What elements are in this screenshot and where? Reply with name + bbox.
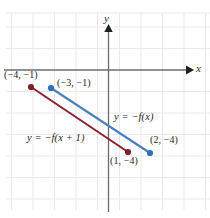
point-label-neg3-neg1: (−3, −1): [57, 78, 91, 88]
x-axis-label: x: [196, 63, 201, 74]
function-label-neg-f-of-x: y = −f(x): [114, 112, 154, 123]
point-label-neg4-neg1: (−4, −1): [4, 70, 38, 80]
endpoint-dot: [28, 84, 34, 90]
y-axis-label: y: [104, 13, 109, 24]
y-axis: [104, 24, 112, 212]
point-label-2-neg4: (2, −4): [150, 135, 178, 145]
endpoint-dot: [48, 85, 54, 91]
point-label-1-neg4: (1, −4): [110, 156, 138, 166]
graph-figure: y x (−4, −1) (−3, −1) (2, −4) (1, −4) y …: [0, 0, 210, 218]
coordinate-plane-svg: [0, 0, 210, 218]
endpoint-dot: [147, 150, 153, 156]
function-label-neg-f-of-x-plus-1: y = −f(x + 1): [27, 133, 85, 144]
